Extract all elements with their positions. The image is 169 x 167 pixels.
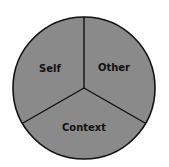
segment-label-self: Self [39,63,61,74]
segment-label-context: Context [62,122,106,133]
three-part-circle-diagram: Self Other Context [0,0,169,167]
segment-label-other: Other [98,62,130,73]
